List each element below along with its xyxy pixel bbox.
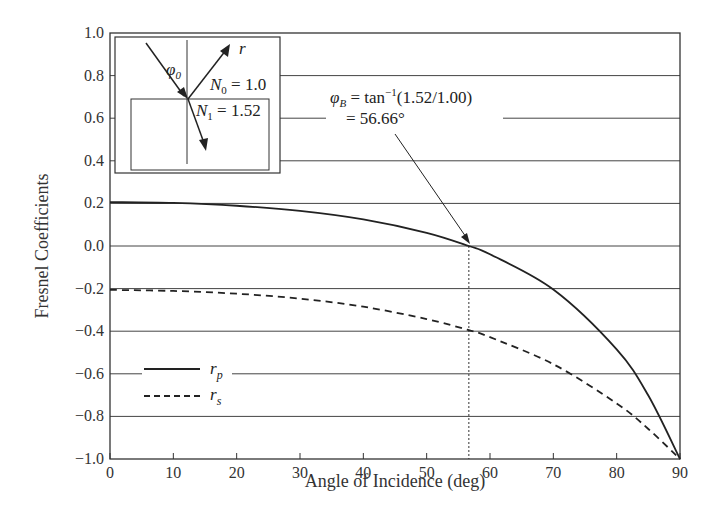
y-tick-label: 0.8 — [84, 67, 104, 84]
legend: rp rs — [142, 359, 232, 410]
series-rp-line — [110, 202, 680, 459]
y-axis-ticks: 1.00.80.60.40.20.0−0.2−0.4−0.6−0.8−1.0 — [75, 24, 104, 467]
brewster-pointer-line — [395, 134, 466, 237]
brewster-annotation-line1: φB = tan−1(1.52/1.00) — [330, 86, 472, 109]
y-tick-label: 0.6 — [84, 109, 104, 126]
y-tick-label: 0.2 — [84, 194, 104, 211]
y-tick-label: −0.8 — [75, 407, 104, 424]
inset-n0-label: N0 = 1.0 — [209, 75, 266, 96]
y-tick-label: 1.0 — [84, 24, 104, 41]
brewster-annotation-line2: = 56.66° — [346, 109, 405, 128]
x-tick-label: 20 — [229, 464, 245, 481]
inset-diagram: φ0 r N0 = 1.0 N1 = 1.52 — [115, 37, 280, 173]
y-tick-label: 0.4 — [84, 152, 104, 169]
x-tick-label: 0 — [106, 464, 114, 481]
x-tick-label: 10 — [165, 464, 181, 481]
inset-n1-label: N1 = 1.52 — [195, 101, 261, 122]
y-tick-label: −0.2 — [75, 280, 104, 297]
y-tick-label: −0.4 — [75, 322, 104, 339]
brewster-arrowhead-icon — [461, 233, 470, 244]
y-tick-label: −0.6 — [75, 365, 104, 382]
x-tick-label: 80 — [609, 464, 625, 481]
y-tick-label: −1.0 — [75, 450, 104, 467]
x-tick-label: 90 — [672, 464, 688, 481]
x-tick-label: 70 — [545, 464, 561, 481]
y-tick-label: 0.0 — [84, 237, 104, 254]
inset-r-label: r — [239, 39, 246, 58]
x-axis-title: Angle of Incidence (deg) — [305, 471, 485, 492]
y-axis-title: Fresnel Coefficients — [32, 173, 52, 318]
fresnel-chart: 0102030405060708090 1.00.80.60.40.20.0−0… — [0, 0, 728, 513]
